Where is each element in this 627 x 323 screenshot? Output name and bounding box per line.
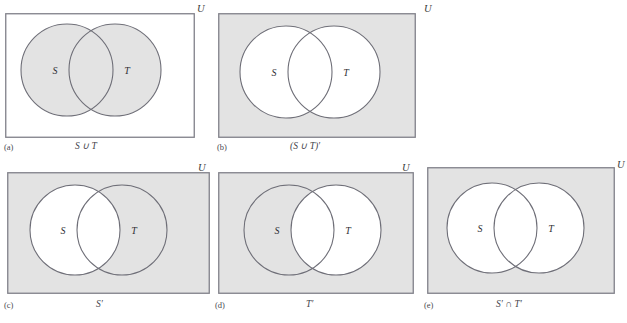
venn-panel-e-svg: S T <box>427 167 615 294</box>
panel-caption-e: S′ ∩ T′ <box>496 300 522 310</box>
set-label-s-e: S <box>478 223 483 234</box>
universe-label-b: U <box>424 4 432 15</box>
venn-panel-a-svg: S T <box>5 13 195 138</box>
set-label-s-b: S <box>272 67 277 78</box>
panel-letter-c: (c) <box>4 301 13 310</box>
universe-label-d: U <box>402 163 410 174</box>
panel-caption-d: T′ <box>306 300 313 310</box>
set-label-s-a: S <box>53 65 58 76</box>
panel-letter-b: (b) <box>217 143 227 152</box>
set-label-s-d: S <box>275 225 280 236</box>
panel-letter-d: (d) <box>215 301 225 310</box>
universe-label-e: U <box>617 160 625 171</box>
universe-label-c: U <box>198 163 206 174</box>
venn-panel-d: S T <box>218 172 414 294</box>
panel-caption-a: S ∪ T <box>75 142 97 152</box>
panel-caption-c: S′ <box>96 300 103 310</box>
venn-panel-e: S T <box>427 167 615 294</box>
panel-letter-a: (a) <box>4 143 13 152</box>
venn-panel-c-svg: S T <box>7 172 210 294</box>
venn-panel-b: S T <box>218 13 416 138</box>
venn-panel-d-svg: S T <box>218 172 414 294</box>
universe-label-a: U <box>197 4 205 15</box>
venn-panel-c: S T <box>7 172 210 294</box>
set-label-s-c: S <box>61 225 66 236</box>
venn-panel-b-svg: S T <box>218 13 416 138</box>
panel-caption-b: (S ∪ T)′ <box>290 142 320 152</box>
venn-diagram-figure: S T U (a) S ∪ T S T U (b) (S ∪ T)′ <box>0 0 627 323</box>
panel-letter-e: (e) <box>424 301 433 310</box>
venn-panel-a: S T <box>5 13 195 138</box>
